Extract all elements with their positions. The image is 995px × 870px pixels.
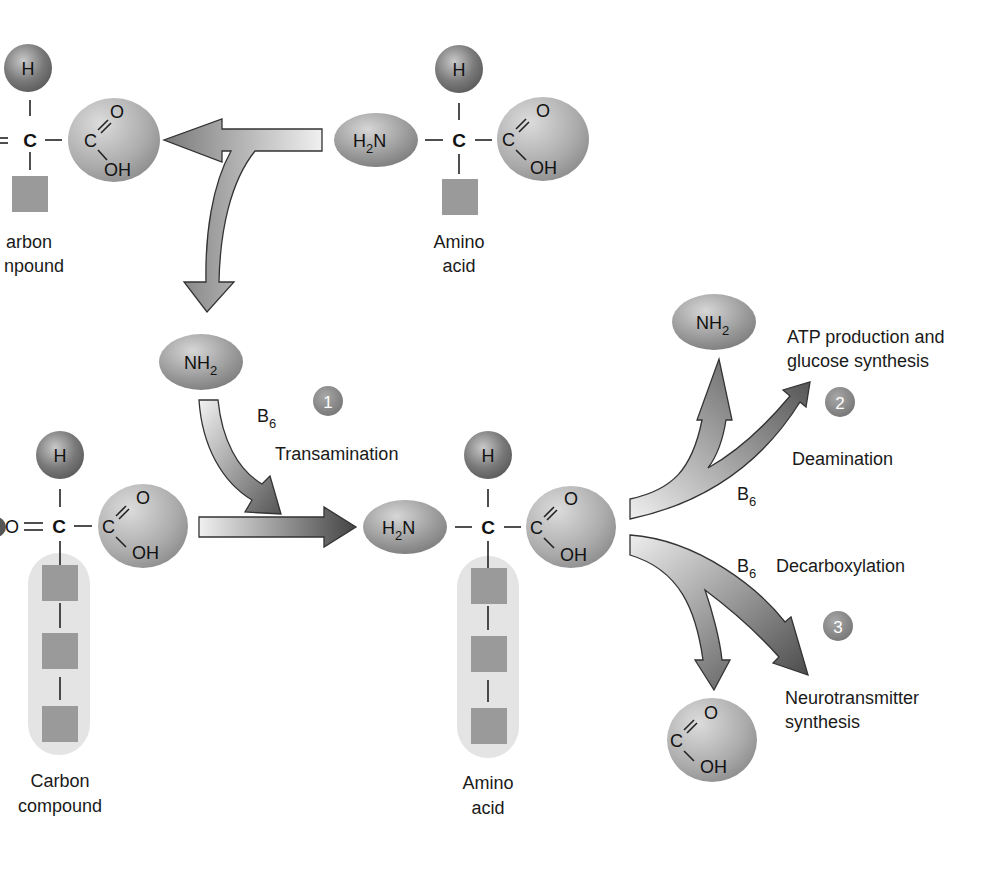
decarboxylation-label: Decarboxylation: [776, 556, 905, 576]
side-chain-square: [42, 565, 78, 601]
top-right-amino-acid: H H2N C C O OH Amino acid: [334, 45, 589, 276]
step-3-badge: 3: [823, 611, 853, 641]
svg-text:C: C: [84, 131, 97, 151]
svg-text:Amino: Amino: [433, 232, 484, 252]
svg-text:acid: acid: [442, 256, 475, 276]
step-2-badge: 2: [825, 387, 855, 417]
amino-acid-metabolism-diagram: H C C O OH arbon npound H H2N C C: [0, 0, 995, 870]
svg-text:OH: OH: [104, 160, 131, 180]
side-chain-square: [471, 568, 507, 604]
svg-text:H: H: [482, 446, 495, 466]
svg-text:O: O: [704, 703, 718, 723]
svg-text:O: O: [5, 517, 19, 537]
svg-text:2: 2: [835, 394, 844, 413]
svg-text:Amino: Amino: [462, 773, 513, 793]
side-chain-square: [12, 176, 48, 212]
molecule-label: npound: [4, 256, 64, 276]
svg-text:C: C: [670, 731, 683, 751]
svg-text:C: C: [502, 130, 515, 150]
released-amine-group: NH2: [672, 294, 756, 350]
transamination-label: Transamination: [275, 444, 398, 464]
side-chain-square: [471, 636, 507, 672]
svg-text:O: O: [536, 101, 550, 121]
decarboxylation-cofactor-label: B6: [737, 556, 756, 581]
svg-text:H: H: [54, 446, 67, 466]
svg-text:acid: acid: [471, 798, 504, 818]
svg-text:C: C: [52, 516, 66, 537]
svg-text:OH: OH: [700, 757, 727, 777]
top-left-carbon-compound: H C C O OH arbon npound: [0, 44, 160, 276]
svg-text:C: C: [102, 517, 115, 537]
step-1-badge: 1: [313, 386, 343, 416]
transferred-amine-group: NH2: [159, 334, 243, 390]
cofactor-b6-label: B6: [257, 406, 276, 431]
svg-text:OH: OH: [132, 543, 159, 563]
svg-text:Carbon: Carbon: [30, 771, 89, 791]
side-chain-square: [442, 179, 478, 215]
released-carboxyl-group: C O OH: [667, 698, 757, 782]
deamination-cofactor-label: B6: [737, 484, 756, 509]
side-chain-square: [42, 633, 78, 669]
bottom-center-amino-acid: H H2N C C O OH Amino acid: [363, 431, 616, 818]
transamination-split-arrow: [164, 119, 322, 312]
decarboxylation-outcome-label: Neurotransmitter: [785, 688, 919, 708]
side-chain-square: [42, 706, 78, 742]
svg-text:compound: compound: [18, 796, 102, 816]
svg-text:C: C: [481, 517, 495, 538]
deamination-outcome-label: glucose synthesis: [787, 351, 929, 371]
hydrogen-label: H: [22, 59, 35, 79]
svg-text:C: C: [452, 130, 466, 151]
side-chain-square: [471, 708, 507, 744]
molecule-label: arbon: [6, 232, 52, 252]
svg-text:OH: OH: [530, 158, 557, 178]
bottom-left-carbon-compound: O H C C O OH Carbon compound: [0, 431, 188, 816]
alpha-carbon-label: C: [23, 130, 37, 151]
deamination-split-arrow: [630, 359, 810, 519]
decarboxylation-outcome-label: synthesis: [785, 712, 860, 732]
svg-text:O: O: [110, 102, 124, 122]
svg-text:OH: OH: [560, 545, 587, 565]
deamination-outcome-label: ATP production and: [787, 327, 944, 347]
svg-text:O: O: [136, 488, 150, 508]
svg-text:1: 1: [323, 393, 332, 412]
svg-text:H: H: [453, 60, 466, 80]
svg-text:3: 3: [833, 618, 842, 637]
deamination-label: Deamination: [792, 449, 893, 469]
svg-text:C: C: [530, 518, 543, 538]
svg-text:O: O: [564, 489, 578, 509]
